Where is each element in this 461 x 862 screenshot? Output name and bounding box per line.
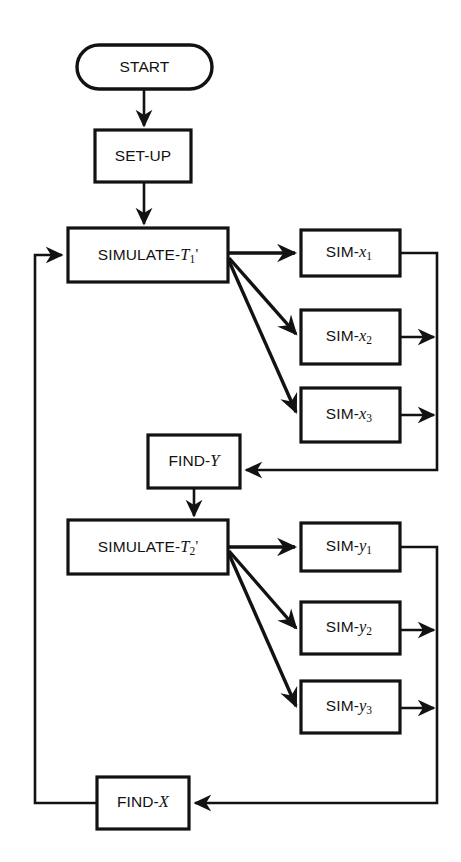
find-x-var: X bbox=[158, 792, 170, 811]
node-sim-y2-label: SIM-y2 bbox=[326, 617, 373, 637]
sim-x1-subscript: 1 bbox=[366, 250, 372, 262]
simulate-t1-prime: ' bbox=[195, 246, 198, 262]
node-start[interactable]: START bbox=[77, 45, 212, 89]
sim-y2-prefix: SIM- bbox=[326, 618, 359, 635]
node-sim-x2-label: SIM-x2 bbox=[326, 326, 373, 346]
edge-simulate-t2-to-sim-y2 bbox=[229, 551, 296, 628]
simulate-t2-prime: ' bbox=[195, 538, 198, 554]
sim-y3-prefix: SIM- bbox=[326, 697, 359, 714]
edge-simulate-t2-to-sim-y3 bbox=[229, 554, 296, 706]
node-sim-x1[interactable]: SIM-x1 bbox=[301, 230, 400, 276]
flowchart-diagram: START SET-UP SIMULATE-T1' SIM-x1 SIM-x2 … bbox=[0, 0, 461, 862]
edge-simulate-t1-to-sim-x2 bbox=[229, 258, 296, 334]
find-y-prefix: FIND- bbox=[168, 452, 210, 469]
node-sim-x3-label: SIM-x3 bbox=[326, 404, 373, 424]
node-sim-x1-label: SIM-x1 bbox=[326, 242, 373, 262]
sim-y3-subscript: 3 bbox=[366, 704, 372, 716]
node-setup-label: SET-UP bbox=[115, 147, 172, 164]
simulate-t2-prefix: SIMULATE- bbox=[98, 538, 180, 555]
node-sim-y3-label: SIM-y3 bbox=[326, 696, 373, 716]
sim-x3-prefix: SIM- bbox=[326, 405, 359, 422]
edge-simulate-t1-to-sim-x3 bbox=[229, 261, 296, 412]
sim-x2-subscript: 2 bbox=[366, 334, 372, 346]
edge-bus-y-to-find-x bbox=[195, 547, 437, 803]
find-x-prefix: FIND- bbox=[117, 793, 159, 810]
sim-y1-prefix: SIM- bbox=[326, 537, 359, 554]
sim-x3-subscript: 3 bbox=[366, 412, 372, 424]
node-find-x-label: FIND-X bbox=[117, 792, 170, 811]
node-simulate-t2[interactable]: SIMULATE-T2' bbox=[68, 520, 228, 574]
sim-y2-subscript: 2 bbox=[366, 625, 372, 637]
node-find-y-label: FIND-Y bbox=[168, 451, 221, 470]
flowchart-canvas: START SET-UP SIMULATE-T1' SIM-x1 SIM-x2 … bbox=[0, 0, 461, 862]
node-sim-y3[interactable]: SIM-y3 bbox=[301, 681, 400, 733]
node-setup[interactable]: SET-UP bbox=[95, 130, 191, 182]
sim-x1-prefix: SIM- bbox=[326, 243, 359, 260]
node-sim-x3[interactable]: SIM-x3 bbox=[301, 388, 400, 442]
node-find-y[interactable]: FIND-Y bbox=[148, 435, 240, 488]
sim-y1-subscript: 1 bbox=[366, 544, 372, 556]
node-sim-y1-label: SIM-y1 bbox=[326, 536, 373, 556]
node-find-x[interactable]: FIND-X bbox=[97, 777, 189, 829]
node-start-label: START bbox=[120, 58, 170, 75]
sim-x2-prefix: SIM- bbox=[326, 327, 359, 344]
node-sim-y1[interactable]: SIM-y1 bbox=[301, 523, 400, 571]
node-sim-x2[interactable]: SIM-x2 bbox=[301, 310, 400, 364]
simulate-t1-prefix: SIMULATE- bbox=[98, 246, 180, 263]
node-simulate-t2-label: SIMULATE-T2' bbox=[98, 537, 199, 557]
node-sim-y2[interactable]: SIM-y2 bbox=[301, 602, 400, 654]
node-simulate-t1-label: SIMULATE-T1' bbox=[98, 245, 199, 265]
node-simulate-t1[interactable]: SIMULATE-T1' bbox=[68, 228, 228, 282]
